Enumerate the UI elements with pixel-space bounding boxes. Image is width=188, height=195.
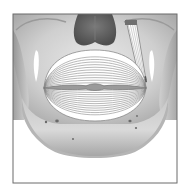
foramen-dot xyxy=(55,120,59,123)
anatomical-illustration xyxy=(0,0,188,195)
foramen-dot xyxy=(128,120,131,123)
foramen-dot xyxy=(136,115,138,117)
foramen-dot xyxy=(135,127,137,129)
orbicularis-oris-muscle xyxy=(44,50,146,121)
foramen-dot xyxy=(72,138,74,140)
foramen-dot xyxy=(45,121,47,123)
strap-origin-cap xyxy=(125,20,137,25)
